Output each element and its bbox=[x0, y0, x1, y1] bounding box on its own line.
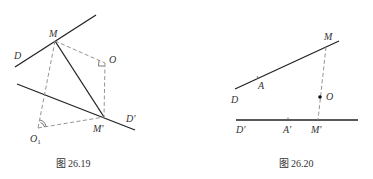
label-D: D bbox=[13, 50, 22, 61]
caption-26-20: 图 26.20 bbox=[279, 158, 314, 169]
label-M-prime: M' bbox=[310, 124, 322, 135]
label-M: M bbox=[323, 31, 333, 42]
line-D-prime bbox=[17, 84, 135, 130]
figure-26-20: M A D O D' A' M' 图 26.20 bbox=[230, 31, 358, 169]
dashed-M-Mprime bbox=[318, 47, 326, 120]
dashed-O-Mprime bbox=[104, 63, 105, 117]
label-O: O bbox=[109, 54, 116, 65]
label-D-prime: D' bbox=[235, 124, 246, 135]
label-O1: O1 bbox=[30, 133, 41, 146]
label-O: O bbox=[326, 91, 333, 102]
line-D bbox=[235, 41, 339, 89]
dashed-M-O1 bbox=[38, 41, 55, 128]
label-A-prime: A' bbox=[282, 124, 292, 135]
diagram-canvas: M D O D' M' O1 图 26.19 M A D O D' A' M' … bbox=[0, 0, 373, 179]
point-O bbox=[318, 95, 322, 99]
right-angle-mark-icon bbox=[99, 61, 105, 67]
angle-arc-icon bbox=[40, 120, 46, 127]
figure-26-19: M D O D' M' O1 图 26.19 bbox=[13, 15, 136, 169]
label-A: A bbox=[257, 80, 265, 91]
angle-arc-inner-icon bbox=[41, 123, 45, 128]
caption-26-19: 图 26.19 bbox=[56, 158, 91, 169]
label-D-prime: D' bbox=[125, 113, 136, 124]
label-D: D bbox=[230, 94, 239, 105]
label-M-prime: M' bbox=[92, 123, 104, 134]
segment-M-Mprime bbox=[55, 41, 104, 117]
label-M: M bbox=[48, 28, 58, 39]
